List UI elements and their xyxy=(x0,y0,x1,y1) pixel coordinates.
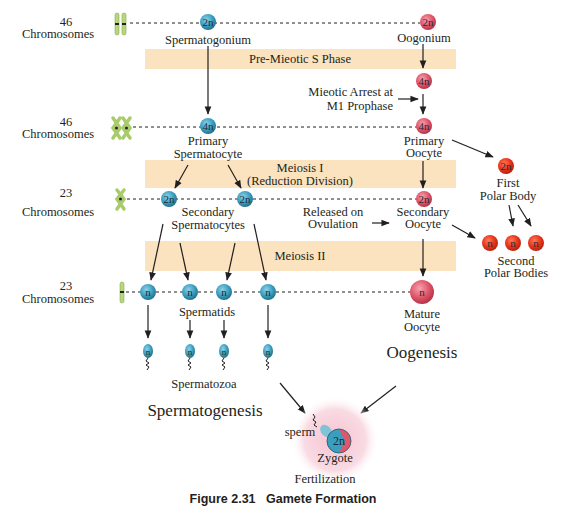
label-first-polar-body-2: Polar Body xyxy=(480,189,537,203)
svg-text:n: n xyxy=(188,347,193,357)
unreplicated-single-icon xyxy=(120,282,124,303)
label-primary-oocyte-2: Oocyte xyxy=(406,146,443,160)
label-oogonium: Oogonium xyxy=(397,31,451,45)
svg-text:n: n xyxy=(187,286,193,298)
svg-text:2n: 2n xyxy=(419,193,431,205)
arrested-oocyte-cell: 4n xyxy=(416,73,432,89)
row-label-4: 23 Chromosomes xyxy=(22,279,94,306)
svg-text:n: n xyxy=(146,347,151,357)
svg-text:2n: 2n xyxy=(501,160,513,172)
label-fertilization: Fertilization xyxy=(294,472,356,486)
svg-text:n: n xyxy=(222,347,227,357)
svg-text:2n: 2n xyxy=(164,193,176,205)
primary-oocyte-cell: 4n xyxy=(416,118,432,134)
zygote-cell: 2n xyxy=(327,429,351,453)
svg-text:n: n xyxy=(221,286,227,298)
row-label-3: 23 Chromosomes xyxy=(22,186,94,219)
band-label-meiosis-2: Meiosis II xyxy=(274,249,325,263)
label-primary-spermatocyte-2: Spermatocyte xyxy=(174,147,243,161)
unreplicated-pair-icon xyxy=(115,13,126,35)
svg-text:n: n xyxy=(265,286,271,298)
svg-text:n: n xyxy=(419,286,425,298)
svg-text:Chromosomes: Chromosomes xyxy=(22,292,94,306)
row-label-2: 46 Chromosomes xyxy=(22,115,94,141)
svg-text:n: n xyxy=(533,237,539,249)
label-mature-oocyte-2: Oocyte xyxy=(404,320,441,334)
svg-text:n: n xyxy=(266,347,271,357)
note-meiotic-arrest-1: Mieotic Arrest at xyxy=(308,85,393,99)
spermatid-cell-2: n xyxy=(182,284,198,300)
label-secondary-oocyte-2: Oocyte xyxy=(405,217,442,231)
replicated-pair-icon xyxy=(113,118,130,138)
spermatid-cell-1: n xyxy=(140,284,156,300)
primary-spermatocyte-cell: 4n xyxy=(200,118,216,134)
label-sperm: sperm xyxy=(285,425,316,439)
label-secondary-spermatocytes-2: Spermatocytes xyxy=(171,218,245,232)
mature-oocyte-cell: n xyxy=(410,280,434,304)
svg-text:2n: 2n xyxy=(203,16,215,28)
spermatozoon-1: n xyxy=(143,344,153,370)
title-spermatogenesis: Spermatogenesis xyxy=(147,401,262,420)
svg-text:n: n xyxy=(487,237,493,249)
label-second-polar-bodies-2: Polar Bodies xyxy=(484,266,548,280)
title-oogenesis: Oogenesis xyxy=(387,343,458,362)
secondary-spermatocyte-cell-2: 2n xyxy=(237,191,253,207)
svg-text:23: 23 xyxy=(60,186,73,200)
svg-text:2n: 2n xyxy=(333,434,345,448)
figure-caption: Figure 2.31 Gamete Formation xyxy=(190,492,377,506)
spermatogonium-cell: 2n xyxy=(200,14,216,30)
spermatozoon-2: n xyxy=(185,344,195,370)
spermatozoon-4: n xyxy=(263,344,273,370)
svg-text:4n: 4n xyxy=(203,120,215,132)
second-polar-body-1: n xyxy=(482,235,498,251)
note-released-on-ovulation-2: Ovulation xyxy=(308,217,359,231)
svg-text:2n: 2n xyxy=(240,193,252,205)
label-spermatids: Spermatids xyxy=(179,305,235,319)
svg-text:4n: 4n xyxy=(419,120,431,132)
secondary-spermatocyte-cell-1: 2n xyxy=(161,191,177,207)
label-primary-spermatocyte-1: Primary xyxy=(188,134,229,148)
label-zygote: Zygote xyxy=(317,451,353,465)
spermatid-cell-4: n xyxy=(260,284,276,300)
svg-text:2n: 2n xyxy=(423,16,435,28)
svg-text:n: n xyxy=(145,286,151,298)
band-label-pre-meiotic: Pre-Mieotic S Phase xyxy=(249,52,352,66)
svg-text:4n: 4n xyxy=(419,75,431,87)
band-label-reduction-division: (Reduction Division) xyxy=(247,174,353,188)
spermatid-cell-3: n xyxy=(216,284,232,300)
oogonium-cell: 2n xyxy=(420,14,436,30)
note-meiotic-arrest-2: M1 Prophase xyxy=(327,99,394,113)
gamete-formation-diagram: Pre-Mieotic S Phase Meiosis I (Reduction… xyxy=(0,0,567,512)
label-spermatogonium: Spermatogonium xyxy=(165,33,251,47)
row-label-1: 46 Chromosomes xyxy=(22,15,94,41)
second-polar-body-2: n xyxy=(505,235,521,251)
first-polar-body-cell: 2n xyxy=(498,158,514,174)
svg-text:Chromosomes: Chromosomes xyxy=(22,205,94,219)
label-first-polar-body-1: First xyxy=(497,176,520,190)
svg-text:23: 23 xyxy=(60,279,73,293)
svg-text:Chromosomes: Chromosomes xyxy=(22,27,94,41)
svg-text:n: n xyxy=(510,237,516,249)
label-secondary-spermatocytes-1: Secondary xyxy=(182,205,236,219)
label-mature-oocyte-1: Mature xyxy=(404,307,441,321)
label-spermatozoa: Spermatozoa xyxy=(171,377,237,391)
band-label-meiosis-1: Meiosis I xyxy=(277,161,324,175)
second-polar-body-3: n xyxy=(528,235,544,251)
svg-text:Chromosomes: Chromosomes xyxy=(22,127,94,141)
spermatozoon-3: n xyxy=(219,344,229,370)
replicated-single-icon xyxy=(117,190,124,209)
